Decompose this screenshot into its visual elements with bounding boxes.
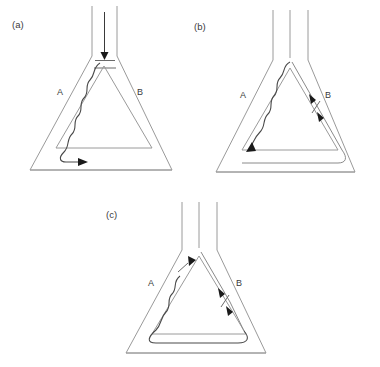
zone-label-b: B <box>137 87 143 97</box>
inner-cone <box>242 68 338 150</box>
flow-path-left <box>250 62 290 148</box>
zone-label-b: B <box>236 278 242 288</box>
right-channel-tick <box>221 295 229 307</box>
inlet-arrow-head-icon <box>101 52 109 60</box>
panel-b-label: (b) <box>194 21 206 32</box>
outer-vessel-wall <box>126 250 266 353</box>
panel-b: (b) A B <box>180 0 380 190</box>
inner-cone <box>152 256 246 334</box>
flow-arrow-head-left-icon <box>246 142 256 152</box>
zone-label-a: A <box>148 278 154 288</box>
outer-vessel-wall <box>30 56 172 170</box>
inlet-arrow-head-icon <box>188 256 196 266</box>
panel-a-label: (a) <box>12 19 24 30</box>
outer-vessel-wall <box>216 60 355 172</box>
flow-path-left-loop <box>149 276 247 343</box>
panel-a: (a) A B <box>0 0 190 190</box>
zone-label-a: A <box>240 90 246 100</box>
panel-c-drawing: (c) A B <box>90 190 300 367</box>
flow-path-right <box>282 62 345 163</box>
panel-a-drawing: (a) A B <box>0 0 190 190</box>
zone-label-b: B <box>325 90 331 100</box>
panel-b-drawing: (b) A B <box>180 0 380 190</box>
left-channel-tick <box>178 263 188 272</box>
zone-label-a: A <box>57 87 63 97</box>
panel-c-label: (c) <box>106 209 117 220</box>
flow-arrow-head-icon <box>78 158 88 166</box>
figure-container: (a) A B (b) <box>0 0 380 367</box>
panel-c: (c) A B <box>90 190 300 367</box>
